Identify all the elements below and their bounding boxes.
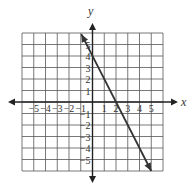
- y-tick-label: −4: [80, 143, 91, 154]
- y-tick-label: 3: [86, 63, 91, 74]
- x-axis-arrow-right: [171, 99, 178, 106]
- y-tick-label: 2: [86, 74, 91, 85]
- y-tick-label: 1: [86, 86, 91, 97]
- y-tick-label: −5: [80, 155, 91, 166]
- x-axis-arrow-left: [8, 99, 15, 106]
- y-tick-label: −1: [80, 109, 91, 120]
- x-tick-label: −2: [64, 103, 75, 114]
- x-tick-label: 1: [102, 103, 107, 114]
- x-tick-label: 4: [137, 103, 142, 114]
- x-axis-label: x: [180, 95, 187, 109]
- y-axis-arrow-up: [89, 23, 96, 30]
- x-tick-label: −5: [28, 103, 39, 114]
- x-tick-label: −3: [52, 103, 63, 114]
- x-tick-label: −4: [40, 103, 51, 114]
- y-tick-label: 4: [86, 51, 91, 62]
- y-axis-label: y: [87, 4, 94, 18]
- y-tick-label: −2: [80, 120, 91, 131]
- coordinate-plane: −5−4−3−2−11234554321−1−2−3−4−5 x y: [0, 0, 194, 186]
- y-tick-label: −3: [80, 132, 91, 143]
- x-tick-label: 5: [149, 103, 154, 114]
- y-axis-arrow-down: [89, 176, 96, 183]
- x-tick-label: 3: [125, 103, 130, 114]
